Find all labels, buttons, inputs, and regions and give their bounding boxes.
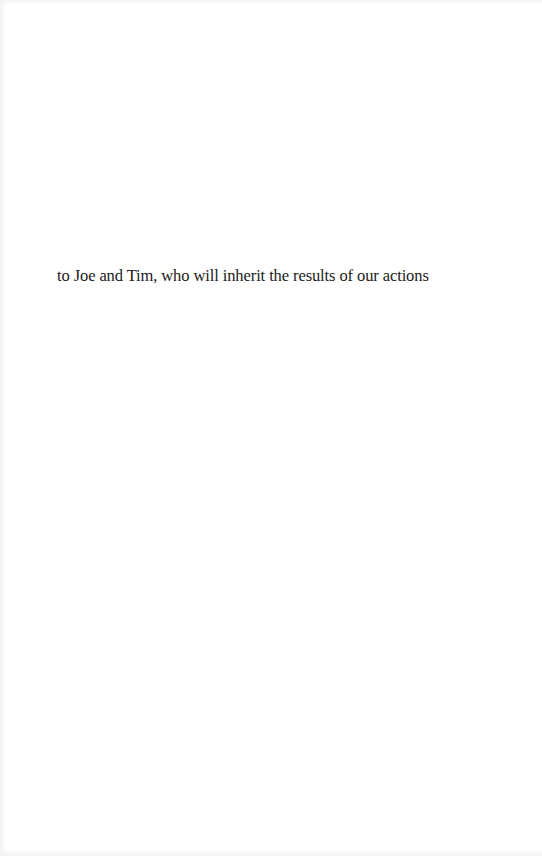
scan-edge-top — [0, 0, 542, 5]
scan-edge-left — [0, 0, 6, 856]
dedication-text: to Joe and Tim, who will inherit the res… — [57, 266, 429, 286]
book-page: to Joe and Tim, who will inherit the res… — [0, 0, 542, 856]
scan-edge-bottom — [0, 848, 542, 856]
